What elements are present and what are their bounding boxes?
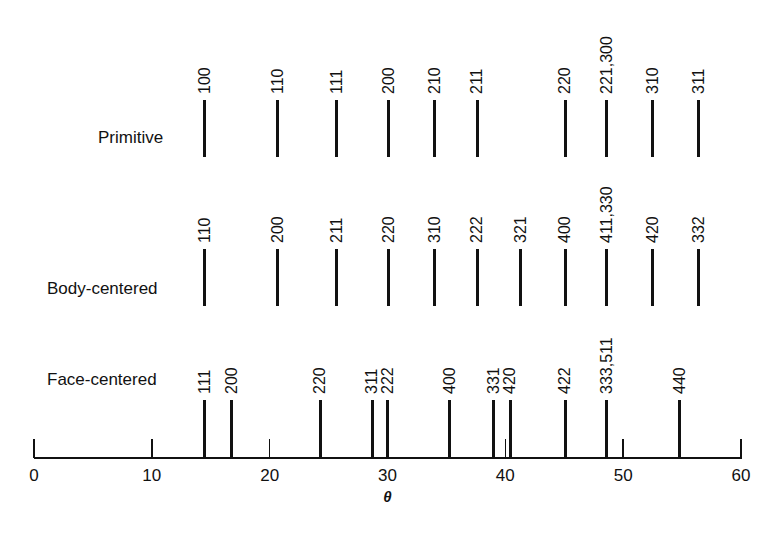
reflection-line [697,249,700,306]
reflection-index-label: 220 [557,67,573,94]
x-tick [269,439,271,458]
x-tick-label: 0 [29,466,38,486]
reflection-line [605,100,608,157]
reflection-index-label: 110 [270,68,286,94]
reflection-line [319,400,322,458]
reflection-index-label: 411,330 [599,186,615,243]
reflection-index-label: 400 [442,367,458,394]
reflection-line [678,400,681,458]
reflection-line [433,249,436,306]
reflection-line [203,249,206,306]
x-axis-label: θ [383,488,391,505]
reflection-index-label: 111 [329,70,345,94]
x-tick [622,439,624,458]
reflection-line [276,100,279,157]
reflection-line [476,100,479,157]
reflection-index-label: 210 [427,67,443,94]
reflection-line [492,400,495,458]
reflection-index-label: 333,511 [599,337,615,394]
reflection-line [371,400,374,458]
reflection-index-label: 221,300 [599,36,615,94]
reflection-index-label: 422 [557,367,573,394]
reflection-index-label: 110 [197,217,213,243]
reflection-line [509,400,512,458]
reflection-index-label: 111 [197,370,213,394]
x-tick-label: 10 [142,466,161,486]
reflection-line [564,100,567,157]
reflection-index-label: 310 [427,216,443,243]
reflection-line [230,400,233,458]
reflection-index-label: 100 [197,67,213,94]
reflection-index-label: 311 [364,368,380,394]
x-tick [505,439,507,458]
reflection-index-label: 331 [486,367,502,394]
reflection-index-label: 420 [502,367,518,394]
reflection-line [697,100,700,157]
row-label-primitive: Primitive [98,128,163,148]
reflection-line [651,249,654,306]
row-label-face-centered: Face-centered [47,370,157,390]
reflection-index-label: 310 [645,67,661,94]
x-tick-label: 50 [614,466,633,486]
x-tick [151,439,153,458]
diffraction-pattern-chart: Primitive Body-centered Face-centered 10… [0,0,776,536]
x-tick-label: 40 [496,466,515,486]
reflection-line [387,249,390,306]
x-tick [33,439,35,458]
reflection-line [203,400,206,458]
reflection-line [335,249,338,306]
reflection-index-label: 332 [691,216,707,243]
reflection-index-label: 440 [672,367,688,394]
reflection-index-label: 220 [312,367,328,394]
reflection-line [335,100,338,157]
reflection-line [448,400,451,458]
x-tick-label: 20 [260,466,279,486]
reflection-index-label: 222 [469,216,485,243]
reflection-line [476,249,479,306]
reflection-index-label: 222 [380,367,396,394]
reflection-line [519,249,522,306]
row-label-body-centered: Body-centered [47,279,158,299]
x-tick-label: 60 [732,466,751,486]
x-tick [740,439,742,458]
reflection-index-label: 200 [381,67,397,94]
reflection-index-label: 220 [381,216,397,243]
reflection-index-label: 321 [513,216,529,243]
reflection-index-label: 200 [224,367,240,394]
reflection-index-label: 211 [329,217,345,243]
reflection-index-label: 420 [645,216,661,243]
reflection-line [605,249,608,306]
reflection-line [564,249,567,306]
reflection-line [564,400,567,458]
reflection-line [433,100,436,157]
reflection-index-label: 211 [469,68,485,94]
reflection-line [651,100,654,157]
reflection-index-label: 311 [691,68,707,94]
reflection-index-label: 200 [270,216,286,243]
reflection-index-label: 400 [557,216,573,243]
reflection-line [387,100,390,157]
x-tick-label: 30 [378,466,397,486]
x-tick [387,439,389,458]
reflection-line [276,249,279,306]
reflection-line [605,400,608,458]
reflection-line [203,100,206,157]
